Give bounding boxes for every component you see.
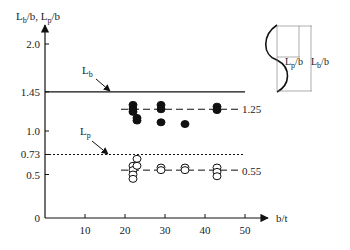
axes xyxy=(45,25,268,218)
lb-arrow xyxy=(96,79,110,91)
x-tick-label: 40 xyxy=(200,224,212,236)
open-point xyxy=(157,167,165,174)
ticks: 102030405000.50.731.01.452.0 xyxy=(21,38,251,236)
y-axis-title: Lb/b, Lp/b xyxy=(16,10,61,25)
lp-annotation: Lp xyxy=(80,125,91,140)
inset-diagram: Lp/b Lb/b xyxy=(266,25,329,92)
open-point xyxy=(133,155,141,162)
y-tick-label: 0.73 xyxy=(21,148,41,160)
y-tick-label: 2.0 xyxy=(26,38,40,50)
lp-arrow xyxy=(92,141,108,154)
x-tick-label: 30 xyxy=(160,224,172,236)
inset-lp-label: Lp/b xyxy=(285,56,303,70)
chart: 102030405000.50.731.01.452.0 Lb/b, Lp/b … xyxy=(0,0,350,250)
filled-point xyxy=(213,107,221,114)
open-point xyxy=(129,175,137,182)
y-tick-label: 1.0 xyxy=(26,125,40,137)
inset-lb-label: Lb/b xyxy=(311,56,329,70)
data-points xyxy=(129,101,221,182)
x-tick-label: 10 xyxy=(80,224,92,236)
open-point xyxy=(213,173,221,180)
x-tick-label: 50 xyxy=(240,224,252,236)
x-tick-label: 20 xyxy=(120,224,132,236)
open-point xyxy=(133,162,141,169)
x-axis-title: b/t xyxy=(276,212,288,224)
mean-lower-label: 0.55 xyxy=(242,165,262,177)
filled-point xyxy=(133,117,141,124)
y-tick-label: 0.5 xyxy=(26,169,40,181)
filled-point xyxy=(157,119,165,126)
filled-point xyxy=(157,106,165,113)
y-tick-label: 1.45 xyxy=(21,86,41,98)
mean-upper-label: 1.25 xyxy=(242,103,262,115)
filled-point xyxy=(181,121,189,128)
open-point xyxy=(181,167,189,174)
y-tick-label: 0 xyxy=(35,212,41,224)
lb-annotation: Lb xyxy=(82,64,93,79)
